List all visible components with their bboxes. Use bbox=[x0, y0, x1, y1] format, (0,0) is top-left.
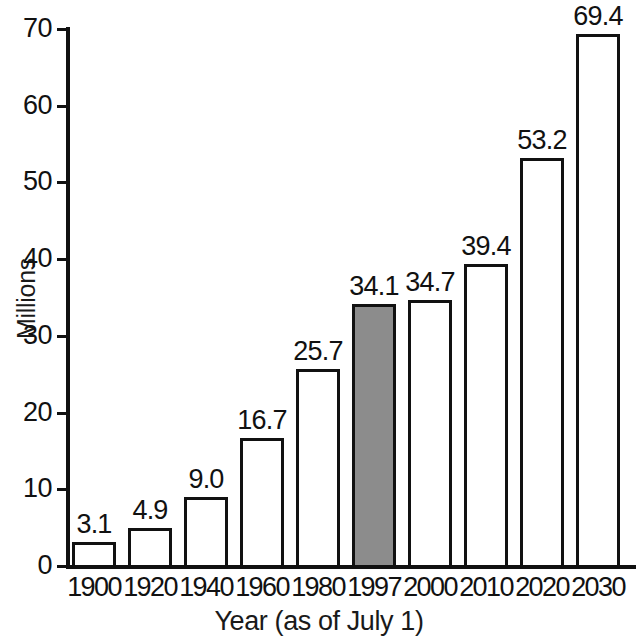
bar bbox=[240, 438, 284, 568]
y-axis-tick-mark bbox=[57, 181, 67, 184]
bar bbox=[576, 34, 620, 568]
y-axis-tick-label: 70 bbox=[0, 15, 52, 42]
y-axis-tick-label: 0 bbox=[0, 552, 52, 579]
x-axis-tick-label: 2030 bbox=[568, 572, 628, 602]
bar bbox=[464, 264, 508, 568]
y-axis-tick-label: 20 bbox=[0, 399, 52, 426]
x-axis-title: Year (as of July 1) bbox=[0, 606, 638, 636]
bar-value-label: 34.7 bbox=[390, 269, 470, 296]
y-axis-tick-mark bbox=[57, 565, 67, 568]
bar bbox=[352, 304, 396, 568]
bar bbox=[520, 158, 564, 568]
y-axis-tick-label: 40 bbox=[0, 245, 52, 272]
bar-value-label: 69.4 bbox=[558, 3, 638, 30]
bar bbox=[184, 497, 228, 568]
bar bbox=[408, 300, 452, 568]
x-axis-tick-label: 1960 bbox=[232, 572, 292, 602]
plot-area: Millions 010203040506070 3.14.99.016.725… bbox=[0, 0, 638, 643]
bar-value-label: 16.7 bbox=[222, 407, 302, 434]
bar-value-label: 53.2 bbox=[502, 127, 582, 154]
y-axis-tick-label: 60 bbox=[0, 92, 52, 119]
bar-value-label: 9.0 bbox=[166, 466, 246, 493]
x-axis-tick-label: 1900 bbox=[64, 572, 124, 602]
y-axis-tick-mark bbox=[57, 335, 67, 338]
y-axis-tick-label: 10 bbox=[0, 475, 52, 502]
x-axis-tick-label: 1920 bbox=[120, 572, 180, 602]
x-axis-tick-label: 1980 bbox=[288, 572, 348, 602]
x-axis-tick-label: 2000 bbox=[400, 572, 460, 602]
y-axis-tick-mark bbox=[57, 488, 67, 491]
y-axis-tick-mark bbox=[57, 28, 67, 31]
y-axis-tick-mark bbox=[57, 105, 67, 108]
bar-value-label: 25.7 bbox=[278, 338, 358, 365]
bar bbox=[72, 542, 116, 568]
x-axis-tick-label: 1940 bbox=[176, 572, 236, 602]
bar bbox=[296, 369, 340, 568]
bar-value-label: 4.9 bbox=[110, 497, 190, 524]
x-axis-tick-label: 1997 bbox=[344, 572, 404, 602]
y-axis-tick-mark bbox=[57, 258, 67, 261]
bar-chart: Millions 010203040506070 3.14.99.016.725… bbox=[0, 0, 638, 643]
x-axis-tick-label: 2010 bbox=[456, 572, 516, 602]
y-axis-tick-label: 30 bbox=[0, 322, 52, 349]
x-axis-tick-label: 2020 bbox=[512, 572, 572, 602]
bar-value-label: 39.4 bbox=[446, 233, 526, 260]
y-axis-tick-mark bbox=[57, 412, 67, 415]
y-axis-tick-label: 50 bbox=[0, 168, 52, 195]
bar bbox=[128, 528, 172, 568]
